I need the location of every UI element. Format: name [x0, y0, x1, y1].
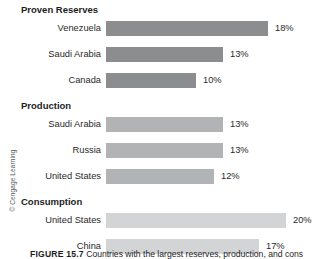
bar: [106, 213, 286, 228]
bar-label: Canada: [0, 75, 101, 85]
bar: [106, 47, 223, 62]
bar-value-label: 12%: [221, 171, 240, 181]
bar-row: United States20%: [0, 213, 321, 228]
bar-label: Venezuela: [0, 23, 101, 33]
bar-label: United States: [0, 171, 101, 181]
figure-caption: FIGURE 15.7 Countries with the largest r…: [30, 249, 321, 259]
bar-label: Russia: [0, 145, 101, 155]
bar: [106, 21, 268, 36]
bar-row: Venezuela18%: [0, 21, 321, 36]
figure-container: © Cengage Learning Proven ReservesVenezu…: [0, 0, 321, 259]
figure-caption-text: Countries with the largest reserves, pro…: [86, 249, 303, 259]
bar-label: Saudi Arabia: [0, 119, 101, 129]
bar-value-label: 13%: [230, 119, 249, 129]
bar: [106, 169, 214, 184]
bar-value-label: 13%: [230, 49, 249, 59]
bar-row: Saudi Arabia13%: [0, 117, 321, 132]
bar-value-label: 18%: [275, 23, 294, 33]
group-header-consumption: Consumption: [21, 196, 82, 207]
group-header-proven-reserves: Proven Reserves: [21, 4, 98, 15]
group-header-production: Production: [21, 100, 71, 111]
bar-value-label: 13%: [230, 145, 249, 155]
bar-row: Saudi Arabia13%: [0, 47, 321, 62]
bar-label: United States: [0, 215, 101, 225]
bar: [106, 117, 223, 132]
bar: [106, 143, 223, 158]
bar-row: Canada10%: [0, 73, 321, 88]
figure-caption-label: FIGURE 15.7: [30, 249, 84, 259]
bar: [106, 73, 196, 88]
bar-row: United States12%: [0, 169, 321, 184]
bar-value-label: 10%: [203, 75, 222, 85]
bar-row: Russia13%: [0, 143, 321, 158]
bar-label: Saudi Arabia: [0, 49, 101, 59]
bar-value-label: 20%: [293, 215, 312, 225]
